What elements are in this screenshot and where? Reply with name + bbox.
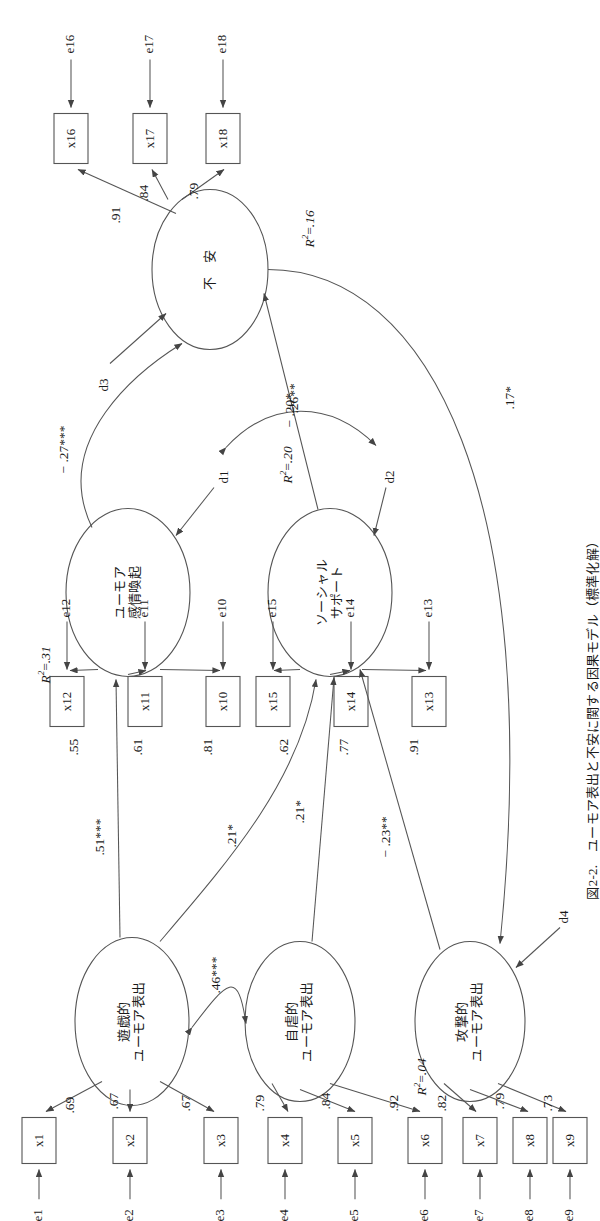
coef-playful-arousal: .51*** xyxy=(92,818,108,855)
boxlabel-x12: x12 xyxy=(59,676,75,726)
label-e15: e15 xyxy=(264,598,280,617)
boxlabel-x7: x7 xyxy=(472,1117,488,1163)
coef-playful-support: .21* xyxy=(224,823,240,847)
boxlabel-x2: x2 xyxy=(122,1117,138,1163)
coef-x6: .92 xyxy=(386,1094,402,1111)
label-d3: d3 xyxy=(96,378,112,391)
arrow-d1-arousal xyxy=(176,487,214,535)
coef-selfdep-support: .21* xyxy=(292,799,308,823)
boxlabel-x3: x3 xyxy=(213,1117,229,1163)
arrow-arousal-anxiety xyxy=(81,343,182,527)
coef-x15: .62 xyxy=(276,738,292,755)
boxlabel-x10: x10 xyxy=(215,676,231,726)
coef-aggress-support: − .23** xyxy=(378,816,394,857)
r2-arousal: R2=.31 xyxy=(36,646,54,683)
label-e1: e1 xyxy=(30,1209,46,1221)
label-e18: e18 xyxy=(214,34,230,53)
label-e12: e12 xyxy=(58,598,74,617)
r2-aggress-value: .04 xyxy=(414,1058,429,1075)
arrow-arousal-x12 xyxy=(70,669,98,670)
boxlabel-x9: x9 xyxy=(562,1117,578,1163)
arrow-arousal-x10 xyxy=(160,669,220,670)
boxlabel-x5: x5 xyxy=(347,1117,363,1163)
figure-caption: 図2-2. ユーモア表出と不安に関する因果モデル（標準化解） xyxy=(582,534,600,899)
coef-anxiety-aggress: .17* xyxy=(502,385,518,409)
ellipse-selfdep xyxy=(245,941,355,1101)
coef-corr-d1-d2: .26** xyxy=(286,383,302,413)
boxlabel-x11: x11 xyxy=(137,676,153,726)
coef-x1: .69 xyxy=(62,1096,78,1113)
arrow-selfdep-x4 xyxy=(272,1083,288,1111)
coef-x18: .79 xyxy=(186,182,202,199)
coef-x11: .61 xyxy=(130,738,146,755)
r2-anxiety: R2=.16 xyxy=(300,210,318,247)
arrow-anxiety-x16 xyxy=(78,169,176,213)
r2-arousal-value: .31 xyxy=(38,646,53,663)
arrow-d3-anxiety xyxy=(110,313,166,363)
label-d1: d1 xyxy=(216,470,232,483)
label-e11: e11 xyxy=(136,599,152,617)
label-e10: e10 xyxy=(214,598,230,617)
label-e8: e8 xyxy=(521,1209,537,1221)
coef-x16: .91 xyxy=(108,206,124,223)
boxlabel-x13: x13 xyxy=(421,676,437,726)
label-d4: d4 xyxy=(556,910,572,923)
coef-x12: .55 xyxy=(66,738,82,755)
ellipse-aggress xyxy=(415,941,525,1101)
coef-x7: .82 xyxy=(434,1094,450,1111)
coef-x17: .84 xyxy=(136,184,152,201)
coef-x13: .91 xyxy=(406,738,422,755)
ellipse-playful xyxy=(75,937,189,1105)
coef-x5: .84 xyxy=(318,1092,334,1109)
arrow-support-x15 xyxy=(274,669,300,670)
boxlabel-x15: x15 xyxy=(265,676,281,726)
r2-aggress: R2=.04 xyxy=(412,1058,430,1095)
ellipse-anxiety xyxy=(152,189,268,349)
arrow-selfdep-support xyxy=(312,677,334,941)
coef-x14: .77 xyxy=(336,738,352,755)
boxlabel-x1: x1 xyxy=(31,1117,47,1163)
boxlabel-x17: x17 xyxy=(142,113,158,163)
boxlabel-x6: x6 xyxy=(417,1117,433,1163)
ellipse-arousal xyxy=(66,508,190,676)
ellipse-support xyxy=(268,508,392,676)
boxlabel-x16: x16 xyxy=(63,113,79,163)
coef-x2: .67 xyxy=(106,1092,122,1109)
coef-x3: .67 xyxy=(178,1094,194,1111)
label-e2: e2 xyxy=(121,1209,137,1221)
coef-arousal-anxiety: − .27*** xyxy=(56,425,72,473)
label-e6: e6 xyxy=(416,1209,432,1221)
r2-anxiety-value: .16 xyxy=(302,210,317,227)
arrow-playful-arousal xyxy=(116,679,120,937)
label-e3: e3 xyxy=(212,1209,228,1221)
arrow-d2-support xyxy=(374,487,386,535)
coef-x8: .79 xyxy=(492,1092,508,1109)
boxlabel-x4: x4 xyxy=(277,1117,293,1163)
label-e17: e17 xyxy=(141,34,157,53)
arrow-d4-aggress xyxy=(516,927,560,967)
boxlabel-x8: x8 xyxy=(522,1117,538,1163)
label-d2: d2 xyxy=(382,470,398,483)
label-e7: e7 xyxy=(471,1209,487,1221)
label-e16: e16 xyxy=(62,34,78,53)
label-e14: e14 xyxy=(342,598,358,617)
coef-x10: .81 xyxy=(200,738,216,755)
label-e9: e9 xyxy=(561,1209,577,1221)
coef-x4: .79 xyxy=(252,1094,268,1111)
label-e4: e4 xyxy=(276,1209,292,1221)
coef-corr-playful-selfdep: .46*** xyxy=(208,956,224,993)
coef-x9: .73 xyxy=(540,1094,556,1111)
label-e5: e5 xyxy=(346,1209,362,1221)
boxlabel-x14: x14 xyxy=(343,676,359,726)
arrow-anxiety-x17 xyxy=(152,169,168,199)
r2-support: R2=.20 xyxy=(278,446,296,483)
arrow-support-x13 xyxy=(362,669,426,670)
boxlabel-x18: x18 xyxy=(215,113,231,163)
r2-support-value: .20 xyxy=(280,446,295,463)
label-e13: e13 xyxy=(420,598,436,617)
